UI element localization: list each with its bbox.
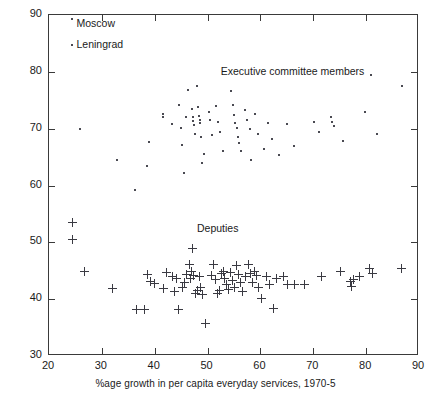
data-point (79, 128, 81, 130)
data-point (188, 244, 197, 253)
data-point (397, 264, 406, 273)
x-axis-tick (260, 348, 261, 354)
x-axis-tick-top (366, 15, 367, 21)
x-axis-label: 50 (187, 360, 227, 371)
x-axis-label: 40 (134, 360, 174, 371)
data-point (254, 113, 256, 115)
data-point (300, 280, 309, 289)
data-point (208, 111, 210, 113)
x-axis-tick (313, 348, 314, 354)
data-point (180, 127, 182, 129)
data-point (174, 305, 183, 314)
data-point (159, 284, 168, 293)
data-point (313, 121, 315, 123)
data-point (364, 111, 366, 113)
data-point (257, 133, 259, 135)
data-point (238, 142, 240, 144)
x-axis-label: 70 (292, 360, 332, 371)
y-axis-tick-right (411, 242, 417, 243)
data-point (331, 121, 333, 123)
data-point (201, 319, 210, 328)
y-axis-label: 50 (2, 235, 42, 246)
y-axis-label: 60 (2, 179, 42, 190)
x-axis-tick (102, 348, 103, 354)
group-annotation: Executive committee members (221, 65, 365, 77)
data-point (290, 280, 299, 289)
data-point (116, 159, 118, 161)
data-point (368, 269, 377, 278)
data-point (215, 105, 217, 107)
data-point (198, 290, 207, 299)
data-point (196, 85, 198, 87)
data-point (401, 85, 403, 87)
data-point (257, 294, 266, 303)
y-axis-tick-right (411, 299, 417, 300)
data-point (185, 116, 187, 118)
data-point (250, 159, 252, 161)
data-point (263, 148, 265, 150)
data-point (252, 271, 261, 280)
x-axis-tick-top (260, 15, 261, 21)
x-axis-label: 30 (81, 360, 121, 371)
data-point (68, 218, 77, 227)
data-point (194, 133, 196, 135)
data-point (108, 284, 117, 293)
data-point (171, 123, 173, 125)
data-point (330, 116, 332, 118)
y-axis-label: 90 (2, 8, 42, 19)
city-annotation: Moscow (76, 17, 115, 29)
data-point (219, 131, 221, 133)
scatter-plot-figure: Executive committee membersDeputiesMosco… (0, 0, 431, 401)
data-point (230, 90, 232, 92)
y-axis-tick-right (411, 186, 417, 187)
data-point (234, 122, 236, 124)
y-axis-tick (49, 186, 55, 187)
data-point (336, 267, 345, 276)
data-point (249, 128, 251, 130)
data-point (317, 272, 326, 281)
x-axis-label: 80 (345, 360, 385, 371)
x-axis-tick-top (313, 15, 314, 21)
x-axis-caption: %age growth in per capita everyday servi… (0, 378, 431, 389)
data-point (71, 18, 73, 20)
data-point (238, 287, 247, 296)
data-point (68, 235, 77, 244)
data-point (240, 150, 242, 152)
data-point (191, 108, 193, 110)
data-point (201, 162, 203, 164)
data-point (148, 141, 150, 143)
data-point (278, 154, 280, 156)
data-point (181, 144, 183, 146)
data-point (200, 136, 202, 138)
plot-area: Executive committee membersDeputiesMosco… (48, 14, 418, 355)
data-point (244, 109, 246, 111)
data-point (211, 134, 213, 136)
group-annotation: Deputies (197, 222, 238, 234)
data-point (342, 140, 344, 142)
y-axis-label: 30 (2, 349, 42, 360)
data-point (271, 138, 273, 140)
data-point (178, 104, 180, 106)
data-point (203, 153, 205, 155)
x-axis-tick-top (208, 15, 209, 21)
data-point (140, 305, 149, 314)
data-point (80, 267, 89, 276)
data-point (146, 165, 148, 167)
x-axis-tick (208, 348, 209, 354)
data-point (370, 74, 372, 76)
data-point (192, 116, 194, 118)
data-point (192, 120, 194, 122)
data-point (236, 127, 238, 129)
data-point (195, 272, 204, 281)
data-point (246, 119, 248, 121)
data-point (217, 121, 219, 123)
data-point (134, 189, 136, 191)
x-axis-tick (366, 348, 367, 354)
y-axis-tick (49, 129, 55, 130)
data-point (209, 119, 211, 121)
city-annotation: Leningrad (76, 38, 123, 50)
data-point (197, 106, 199, 108)
x-axis-label: 60 (239, 360, 279, 371)
y-axis-tick-right (411, 72, 417, 73)
data-point (269, 304, 278, 313)
